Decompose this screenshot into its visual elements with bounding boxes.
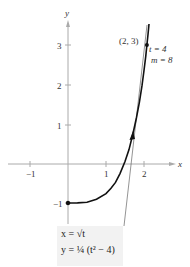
y-tick-label-neg1: −1 [53, 199, 63, 209]
x-tick-label-2: 2 [142, 169, 147, 179]
y-tick-label-3: 3 [57, 41, 62, 51]
point-start [66, 201, 70, 205]
y-axis-arrow-icon [66, 20, 70, 27]
parametric-curve [68, 24, 149, 203]
x-tick-label-1: 1 [104, 169, 109, 179]
equation-y: y = ¼ (t² − 4) [61, 244, 115, 255]
x-tick-label-neg1: −1 [26, 169, 36, 179]
x-axis-arrow-icon [169, 162, 176, 166]
t-value-label: t = 4 [149, 44, 167, 54]
y-tick-label-1: 1 [57, 121, 62, 131]
slope-label: m = 8 [151, 55, 173, 65]
y-axis-label: y [64, 8, 69, 18]
x-axis-label: x [177, 159, 182, 169]
equation-x: x = √t [61, 228, 85, 239]
y-tick-label-2: 2 [57, 81, 62, 91]
point-label: (2, 3) [119, 36, 139, 46]
